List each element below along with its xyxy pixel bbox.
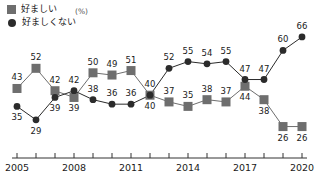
- data-value-label: 40: [145, 80, 156, 89]
- data-point-square: [260, 95, 269, 104]
- data-point-square: [13, 84, 22, 93]
- data-point-circle: [52, 94, 59, 101]
- data-point-square: [222, 97, 231, 106]
- data-value-label: 54: [202, 49, 213, 58]
- data-value-label: 50: [88, 58, 99, 67]
- data-point-circle: [242, 76, 249, 83]
- data-point-circle: [280, 47, 287, 54]
- data-point-square: [108, 71, 117, 80]
- data-value-label: 43: [12, 73, 23, 82]
- data-point-square: [89, 68, 98, 77]
- data-point-square: [165, 97, 174, 106]
- data-value-label: 55: [221, 46, 232, 55]
- data-value-label: 52: [31, 53, 42, 62]
- data-value-label: 36: [107, 89, 118, 98]
- data-point-circle: [204, 60, 211, 67]
- data-value-label: 49: [107, 60, 118, 69]
- x-axis: [12, 153, 307, 158]
- data-value-label: 42: [69, 75, 80, 84]
- data-value-label: 66: [297, 22, 308, 31]
- data-point-circle: [14, 103, 21, 110]
- data-value-label: 38: [202, 84, 213, 93]
- x-axis-tick-label: 2014: [176, 163, 200, 173]
- x-axis-tick-label: 2005: [5, 163, 29, 173]
- data-point-square: [51, 86, 60, 95]
- x-axis-tick-label: 2020: [290, 163, 314, 173]
- data-value-label: 52: [164, 53, 175, 62]
- data-value-label: 26: [297, 133, 308, 142]
- chart-container: 好ましい 好ましくない (%) 435242395049514037353837…: [0, 0, 321, 180]
- data-value-label: 47: [240, 64, 251, 73]
- data-value-label: 29: [31, 127, 42, 136]
- data-point-square: [203, 95, 212, 104]
- data-point-square: [241, 82, 250, 91]
- data-point-circle: [109, 101, 116, 108]
- x-axis-tick-label: 2017: [233, 163, 257, 173]
- data-point-circle: [33, 116, 40, 123]
- data-value-label: 55: [183, 46, 194, 55]
- data-point-circle: [166, 65, 173, 72]
- x-axis-tick-label: 2011: [119, 163, 143, 173]
- data-point-circle: [223, 58, 230, 65]
- data-value-label: 35: [12, 113, 23, 122]
- data-value-label: 36: [126, 89, 137, 98]
- data-value-label: 26: [278, 133, 289, 142]
- data-value-label: 42: [50, 75, 61, 84]
- data-value-label: 44: [240, 93, 251, 102]
- data-point-square: [184, 102, 193, 111]
- data-value-label: 37: [164, 87, 175, 96]
- data-point-circle: [90, 96, 97, 103]
- data-point-circle: [71, 87, 78, 94]
- data-value-label: 51: [126, 55, 137, 64]
- chart-plot-area: [0, 0, 321, 180]
- x-axis-tick-label: 2008: [62, 163, 86, 173]
- data-value-label: 38: [88, 84, 99, 93]
- data-value-label: 39: [69, 104, 80, 113]
- data-point-circle: [147, 92, 154, 99]
- data-point-square: [127, 66, 136, 75]
- data-value-label: 47: [259, 64, 270, 73]
- data-value-label: 37: [221, 87, 232, 96]
- data-point-square: [70, 93, 79, 102]
- data-point-square: [32, 64, 41, 73]
- data-value-label: 60: [278, 35, 289, 44]
- data-value-label: 39: [50, 104, 61, 113]
- data-point-circle: [299, 34, 306, 41]
- data-point-circle: [128, 101, 135, 108]
- data-value-label: 40: [145, 102, 156, 111]
- data-point-square: [298, 122, 307, 131]
- data-point-circle: [261, 76, 268, 83]
- data-value-label: 35: [183, 91, 194, 100]
- data-point-square: [279, 122, 288, 131]
- data-value-label: 38: [259, 106, 270, 115]
- data-point-circle: [185, 58, 192, 65]
